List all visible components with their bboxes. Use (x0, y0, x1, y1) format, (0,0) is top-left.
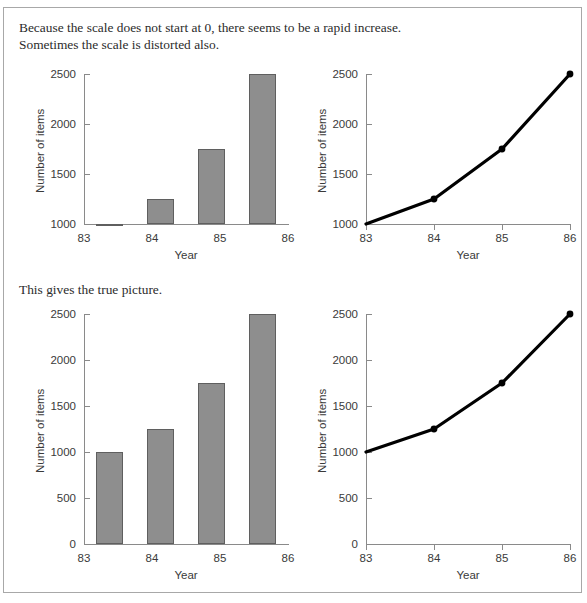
bar (96, 452, 123, 544)
y-axis-tick-label: 1500 (22, 400, 76, 412)
x-axis-tick-label: 85 (214, 552, 227, 564)
bar (198, 383, 225, 544)
bar (249, 74, 276, 224)
x-axis-title: Year (174, 569, 197, 581)
x-axis-tick-label: 83 (78, 552, 91, 564)
y-axis-tick-label: 1000 (22, 218, 76, 230)
y-axis-tick-label: 500 (22, 492, 76, 504)
y-axis-tick (85, 544, 90, 545)
bar (147, 199, 174, 224)
y-axis-tick (85, 452, 90, 453)
data-point-marker (567, 71, 574, 78)
data-point-marker (431, 196, 438, 203)
y-axis-title: Number of items (34, 389, 46, 473)
y-axis-tick (85, 406, 90, 407)
caption-true-picture: This gives the true picture. (19, 281, 559, 298)
bar (147, 429, 174, 544)
caption-distorted-scale: Because the scale does not start at 0, t… (19, 19, 559, 53)
page-frame: Because the scale does not start at 0, t… (3, 7, 582, 593)
bar (249, 314, 276, 544)
x-axis-tick-label: 85 (214, 232, 227, 244)
data-point-marker (499, 380, 506, 387)
x-axis-tick-label: 84 (146, 232, 159, 244)
line-series (304, 66, 576, 266)
data-point-marker (499, 146, 506, 153)
y-axis-title: Number of items (34, 109, 46, 193)
y-axis-tick (85, 174, 90, 175)
y-axis-tick-label: 1000 (22, 446, 76, 458)
y-axis-tick (85, 124, 90, 125)
y-axis-tick (85, 360, 90, 361)
y-axis-tick (85, 314, 90, 315)
chart-bottom-right-line: 0500100015002000250083848586YearNumber o… (304, 306, 576, 586)
data-point-marker (567, 311, 574, 318)
chart-top-right-line: 100015002000250083848586YearNumber of it… (304, 66, 576, 266)
y-axis-tick-label: 0 (22, 538, 76, 550)
data-point-marker (431, 426, 438, 433)
y-axis-tick-label: 2500 (22, 68, 76, 80)
line-path (366, 74, 570, 224)
y-axis-tick-label: 2000 (22, 354, 76, 366)
x-axis-tick-label: 84 (146, 552, 159, 564)
bar (96, 224, 123, 226)
line-series (304, 306, 576, 586)
y-axis-tick-label: 1500 (22, 168, 76, 180)
y-axis-tick (85, 224, 90, 225)
x-axis-tick-label: 86 (282, 232, 295, 244)
x-axis-title: Year (174, 249, 197, 261)
y-axis-line (84, 74, 85, 225)
bar (198, 149, 225, 224)
x-axis-tick-label: 86 (282, 552, 295, 564)
y-axis-tick-label: 2500 (22, 308, 76, 320)
chart-bottom-left-bar: 0500100015002000250083848586YearNumber o… (22, 306, 294, 586)
y-axis-tick (85, 74, 90, 75)
x-axis-tick-label: 83 (78, 232, 91, 244)
y-axis-tick-label: 2000 (22, 118, 76, 130)
line-path (366, 314, 570, 452)
x-axis-line (84, 544, 289, 545)
y-axis-line (84, 314, 85, 545)
chart-top-left-bar: 100015002000250083848586YearNumber of it… (22, 66, 294, 266)
y-axis-tick (85, 498, 90, 499)
